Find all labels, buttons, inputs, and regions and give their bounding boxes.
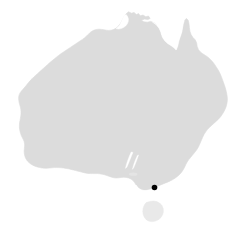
landmass-kangaroo-island [129, 173, 137, 176]
map-figure: Australia [0, 0, 245, 237]
australia-map-svg [0, 0, 245, 237]
location-marker[interactable] [152, 185, 158, 191]
